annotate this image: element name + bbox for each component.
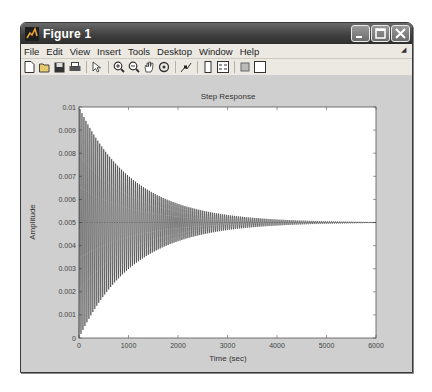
menu-edit[interactable]: Edit xyxy=(46,46,62,57)
open-file-button[interactable] xyxy=(38,61,51,74)
new-figure-icon xyxy=(24,61,35,73)
menu-window[interactable]: Window xyxy=(199,46,233,57)
y-tick-label: 0 xyxy=(72,335,76,342)
maximize-icon xyxy=(375,28,386,39)
toolbar-separator xyxy=(234,61,235,73)
x-tick-label: 1000 xyxy=(121,342,137,349)
dock-arrow-icon[interactable]: ◢ xyxy=(401,46,406,54)
pan-button[interactable] xyxy=(142,61,155,74)
maximize-button[interactable] xyxy=(371,25,390,42)
y-tick-label: 0.006 xyxy=(58,196,76,203)
y-tick-label: 0.01 xyxy=(62,104,76,111)
plot-title: Step Response xyxy=(201,92,256,101)
close-button[interactable] xyxy=(391,25,410,42)
legend-button[interactable] xyxy=(216,61,229,74)
select-button[interactable] xyxy=(90,61,103,74)
pan-icon xyxy=(143,61,155,73)
zoom-out-icon xyxy=(128,61,140,73)
y-axis-label: Amplitude xyxy=(28,204,37,240)
hide-plot-tools-button[interactable] xyxy=(238,61,251,74)
close-icon xyxy=(395,28,406,39)
colorbar-button[interactable] xyxy=(201,61,214,74)
toolbar-separator xyxy=(197,61,198,73)
menu-tools[interactable]: Tools xyxy=(128,46,150,57)
print-icon xyxy=(69,62,81,73)
rotate-3d-button[interactable] xyxy=(157,61,170,74)
y-tick-label: 0.004 xyxy=(58,242,76,249)
x-tick-label: 2000 xyxy=(170,342,186,349)
menu-view[interactable]: View xyxy=(70,46,90,57)
x-tick-label: 6000 xyxy=(368,342,384,349)
y-tick-label: 0.008 xyxy=(58,150,76,157)
window-title: Figure 1 xyxy=(43,27,91,41)
y-tick-label: 0.003 xyxy=(58,265,76,272)
menu-help[interactable]: Help xyxy=(240,46,260,57)
new-figure-button[interactable] xyxy=(23,61,36,74)
save-icon xyxy=(54,62,65,73)
hide-plot-tools-icon xyxy=(240,62,250,72)
print-button[interactable] xyxy=(68,61,81,74)
x-tick-label: 5000 xyxy=(319,342,335,349)
step-response-plot[interactable]: Step Response 00.0010.0020.0030.0040.005… xyxy=(21,75,412,372)
y-tick-label: 0.005 xyxy=(58,219,76,226)
toolbar-separator xyxy=(86,61,87,73)
colorbar-icon xyxy=(203,61,213,73)
y-tick-label: 0.009 xyxy=(58,127,76,134)
zoom-out-button[interactable] xyxy=(127,61,140,74)
toolbar-separator xyxy=(175,61,176,73)
x-tick-label: 4000 xyxy=(269,342,285,349)
open-file-icon xyxy=(39,62,51,73)
show-plot-tools-icon xyxy=(254,61,266,73)
title-bar[interactable]: Figure 1 xyxy=(21,23,412,44)
zoom-in-icon xyxy=(113,61,125,73)
legend-icon xyxy=(217,61,229,73)
save-button[interactable] xyxy=(53,61,66,74)
y-tick-label: 0.007 xyxy=(58,173,76,180)
figure-window: Figure 1 File Edit View Insert Tools Des… xyxy=(20,22,413,373)
toolbar xyxy=(21,59,412,76)
minimize-icon xyxy=(355,28,366,39)
x-tick-label: 3000 xyxy=(220,342,236,349)
data-cursor-icon xyxy=(180,61,192,73)
zoom-in-button[interactable] xyxy=(112,61,125,74)
figure-canvas[interactable]: Step Response 00.0010.0020.0030.0040.005… xyxy=(21,75,412,372)
menu-desktop[interactable]: Desktop xyxy=(157,46,192,57)
data-cursor-button[interactable] xyxy=(179,61,192,74)
rotate-3d-icon xyxy=(158,61,170,73)
matlab-icon xyxy=(25,27,39,41)
y-tick-label: 0.002 xyxy=(58,288,76,295)
minimize-button[interactable] xyxy=(351,25,370,42)
toolbar-separator xyxy=(108,61,109,73)
menu-bar: File Edit View Insert Tools Desktop Wind… xyxy=(21,44,412,59)
menu-insert[interactable]: Insert xyxy=(97,46,121,57)
select-arrow-icon xyxy=(92,61,102,73)
menu-file[interactable]: File xyxy=(24,46,39,57)
x-tick-label: 0 xyxy=(77,342,81,349)
y-tick-label: 0.001 xyxy=(58,311,76,318)
show-plot-tools-button[interactable] xyxy=(253,61,266,74)
x-axis-label: Time (sec) xyxy=(209,354,247,363)
